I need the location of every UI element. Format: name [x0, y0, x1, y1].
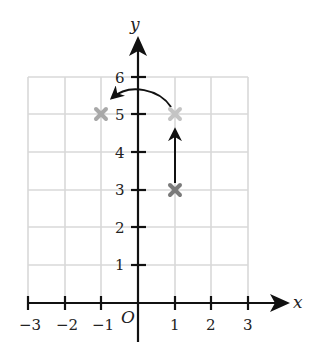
x-tick-label: 3	[243, 316, 253, 334]
y-tick-label: 2	[115, 219, 125, 237]
x-axis	[28, 294, 290, 312]
reflection-arc-arrow	[112, 89, 171, 107]
x-tick-label: −3	[19, 316, 41, 334]
y-tick-label: 4	[115, 144, 125, 162]
x-tick-label: 1	[170, 316, 180, 334]
x-tick-label: −2	[56, 316, 78, 334]
y-tick-label: 5	[115, 106, 125, 124]
x-axis-label: x	[293, 292, 303, 312]
x-tick-label: −1	[92, 316, 114, 334]
y-tick-label: 3	[115, 181, 125, 199]
y-tick-label: 1	[115, 256, 125, 274]
y-axis-label: y	[129, 14, 140, 34]
coordinate-plane: y x O −3 −2 −1 1 2 3 1 2 3 4 5 6	[0, 0, 321, 352]
x-tick-label: 2	[206, 316, 216, 334]
origin-label: O	[121, 307, 135, 327]
y-axis	[129, 36, 147, 342]
y-tick-label: 6	[115, 69, 125, 87]
